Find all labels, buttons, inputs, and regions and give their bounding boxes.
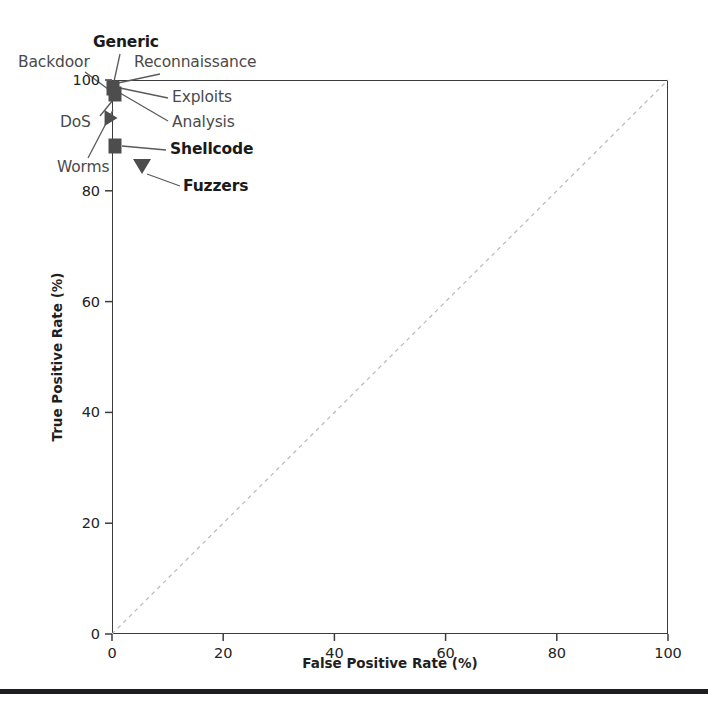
x-tick-label-100: 100 <box>644 645 692 661</box>
annotation-label-backdoor: Backdoor <box>18 53 90 71</box>
x-axis-title: False Positive Rate (%) <box>302 655 477 671</box>
y-tick-label-80: 80 <box>56 183 100 199</box>
y-tick-label-20: 20 <box>56 515 100 531</box>
annotation-label-exploits: Exploits <box>172 88 232 106</box>
data-point-fuzzers[interactable] <box>133 159 151 174</box>
roc-scatter-figure: 100 80 60 40 20 0 0 20 40 60 80 100 Fals… <box>0 0 708 709</box>
data-point-worms-shellcode[interactable] <box>109 139 122 154</box>
y-tick-label-0: 0 <box>56 626 100 642</box>
annotation-label-reconnaissance: Reconnaissance <box>134 53 257 71</box>
x-tick-marks <box>112 634 668 641</box>
x-tick-label-80: 80 <box>533 645 581 661</box>
annotation-label-fuzzers: Fuzzers <box>183 177 248 195</box>
page-bottom-rule <box>0 689 708 694</box>
annotation-label-generic: Generic <box>93 33 159 51</box>
x-tick-label-0: 0 <box>88 645 136 661</box>
annotation-label-dos: DoS <box>60 113 91 131</box>
annotation-label-shellcode: Shellcode <box>170 140 253 158</box>
data-point-reconnaissance[interactable] <box>109 87 122 102</box>
y-tick-label-100: 100 <box>56 72 100 88</box>
annotation-label-worms: Worms <box>57 158 109 176</box>
annotation-label-analysis: Analysis <box>172 113 235 131</box>
plot-area-frame <box>112 80 668 634</box>
data-point-dos-analysis[interactable] <box>105 110 118 126</box>
x-tick-label-20: 20 <box>199 645 247 661</box>
y-axis-title: True Positive Rate (%) <box>49 272 65 441</box>
